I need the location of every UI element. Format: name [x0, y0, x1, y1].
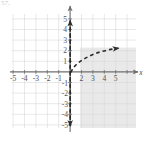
x-tick-label: 3 — [91, 74, 95, 83]
x-tick-label: -2 — [44, 74, 51, 83]
y-tick-label: -4 — [62, 110, 69, 119]
x-tick-label: -3 — [33, 74, 40, 83]
x-axis-label: x — [138, 68, 143, 77]
y-tick-label: 2 — [63, 46, 67, 55]
y-tick-label: 4 — [63, 25, 67, 34]
x-tick-label: 2 — [80, 74, 84, 83]
x-tick-label: -5 — [10, 74, 17, 83]
problem-number-label: 57. — [1, 0, 10, 7]
y-tick-label: 5 — [63, 15, 67, 24]
y-tick-label: -1 — [62, 79, 69, 88]
coordinate-plane-graph: -5 -4 -3 -2 -1 2 3 4 5 5 4 3 2 1 -1 -2 -… — [0, 0, 148, 142]
y-tick-label: 3 — [63, 36, 67, 45]
y-tick-label: -2 — [62, 89, 69, 98]
shaded-quadrant-region — [80, 48, 137, 130]
figure-container: 57. — [0, 0, 148, 142]
y-tick-label: -3 — [62, 100, 69, 109]
y-tick-label: -5 — [62, 121, 69, 130]
x-tick-label: 4 — [102, 74, 106, 83]
x-tick-label: -4 — [21, 74, 28, 83]
y-tick-label: 1 — [63, 57, 67, 66]
x-tick-label: 5 — [114, 74, 118, 83]
